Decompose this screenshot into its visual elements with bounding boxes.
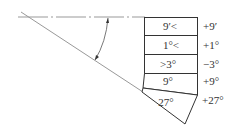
block-3-label: >3°: [160, 58, 176, 70]
block-1-effect: +9′: [203, 20, 217, 32]
block-4-effect: +9°: [203, 75, 219, 87]
inclined-line: [21, 12, 143, 92]
block-5-effect: +27°: [202, 94, 224, 106]
block-stack: [142, 18, 198, 125]
block-4-label: 9°: [163, 75, 173, 87]
arc-arrow-top-icon: [106, 18, 109, 23]
block-3-effect: −3°: [203, 58, 219, 70]
angle-arc: [95, 18, 108, 60]
block-2-effect: +1°: [203, 39, 219, 51]
block-1-label: 9′<: [163, 20, 177, 32]
block-2-label: 1°<: [163, 39, 179, 51]
angle-diagram: 9′< 1°< >3° 9° 27° +9′ +1° −3° +9° +27°: [0, 0, 235, 133]
arc-arrow-bottom-icon: [95, 55, 99, 60]
block-5-label: 27°: [158, 96, 173, 108]
